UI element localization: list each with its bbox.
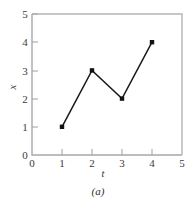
data-series-line [62, 42, 152, 127]
y-axis-label: x [8, 80, 19, 94]
data-point-marker [60, 125, 64, 129]
figure-caption: (a) [68, 186, 128, 197]
x-axis-label: t [96, 169, 110, 180]
figure-panel: 0 1 2 3 4 5 0 1 2 3 4 5 x t (a) [0, 0, 195, 208]
y-tick-label-1: 1 [18, 122, 32, 133]
x-axis-ticks [62, 149, 152, 155]
y-tick-label-2: 2 [18, 94, 32, 105]
x-tick-label-1: 1 [55, 158, 69, 169]
x-tick-label-3: 3 [115, 158, 129, 169]
data-point-marker [150, 40, 154, 44]
y-tick-label-3: 3 [18, 66, 32, 77]
y-tick-label-5: 5 [18, 9, 32, 20]
data-point-marker [90, 68, 94, 72]
data-point-marker [120, 96, 124, 100]
y-tick-label-4: 4 [18, 37, 32, 48]
x-tick-label-2: 2 [85, 158, 99, 169]
y-axis-ticks [32, 14, 38, 127]
x-tick-label-0: 0 [25, 158, 39, 169]
x-tick-label-4: 4 [145, 158, 159, 169]
x-tick-label-5: 5 [175, 158, 189, 169]
